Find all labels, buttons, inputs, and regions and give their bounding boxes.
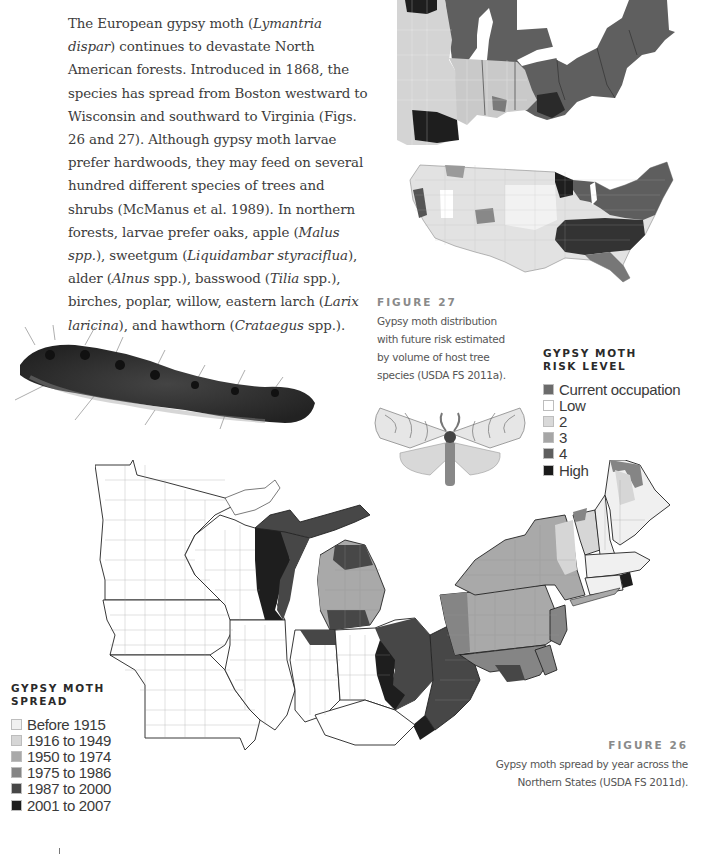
risk-legend-title-1: GYPSY MOTH [543,347,680,360]
legend-label: 1916 to 1949 [27,732,111,749]
legend-item: 2001 to 2007 [11,797,111,813]
italic-species-name: Tilia [270,271,299,286]
risk-map-regional [397,0,706,150]
legend-item: 1987 to 2000 [11,781,111,797]
page-tick-mark [59,848,60,854]
legend-item: Before 1915 [11,716,111,732]
legend-swatch [543,448,554,459]
legend-item: 1975 to 1986 [11,765,111,781]
spread-legend-title-1: GYPSY MOTH [11,682,111,695]
legend-item: 1916 to 1949 [11,732,111,748]
figure-26-label: FIGURE 26 [458,739,688,751]
legend-label: 3 [559,429,567,446]
legend-swatch [11,719,22,730]
italic-species-name: Liquidambar styraciflua [187,248,348,263]
legend-swatch [543,416,554,427]
text-run: ) continues to devastate North American … [68,39,368,240]
risk-legend-title-2: RISK LEVEL [543,360,680,373]
caterpillar-photo [5,325,325,434]
spread-legend-title-2: SPREAD [11,695,111,708]
spread-legend-items: Before 19151916 to 19491950 to 19741975 … [11,716,111,813]
legend-label: 1975 to 1986 [27,764,111,781]
figure-27-caption-block: FIGURE 27 Gypsy moth distribution with f… [377,296,517,384]
figure-27-label: FIGURE 27 [377,296,517,308]
italic-species-name: Alnus [112,271,150,286]
legend-swatch [543,400,554,411]
legend-label: Current occupation [559,381,680,398]
legend-label: 1987 to 2000 [27,780,111,797]
legend-label: Low [559,397,586,414]
text-run: spp.), basswood ( [150,271,270,286]
figure-27-caption: Gypsy moth distribution with future risk… [377,312,517,384]
legend-label: 2 [559,413,567,430]
risk-map-us [405,160,695,290]
legend-swatch [11,783,22,794]
legend-label: 2001 to 2007 [27,797,111,814]
text-run: ), sweetgum ( [96,248,187,263]
legend-item: 3 [543,430,680,446]
figure-26-caption-block: FIGURE 26 Gypsy moth spread by year acro… [458,739,688,791]
legend-item: Current occupation [543,381,680,397]
text-run: The European gypsy moth ( [68,16,253,31]
legend-item: Low [543,397,680,413]
figure-26-caption: Gypsy moth spread by year across the Nor… [458,755,688,791]
legend-swatch [543,384,554,395]
legend-label: Before 1915 [27,716,105,733]
legend-label: 1950 to 1974 [27,748,111,765]
legend-swatch [11,767,22,778]
legend-swatch [543,432,554,443]
legend-item: 2 [543,413,680,429]
spread-legend: GYPSY MOTH SPREAD Before 19151916 to 194… [11,682,111,813]
legend-swatch [11,735,22,746]
legend-item: 1950 to 1974 [11,748,111,764]
paragraph-text: The European gypsy moth (Lymantria dispa… [68,12,368,337]
body-paragraph: The European gypsy moth (Lymantria dispa… [68,12,368,337]
legend-swatch [11,800,22,811]
risk-level-legend: GYPSY MOTH RISK LEVEL Current occupation… [543,347,680,478]
legend-swatch [11,751,22,762]
